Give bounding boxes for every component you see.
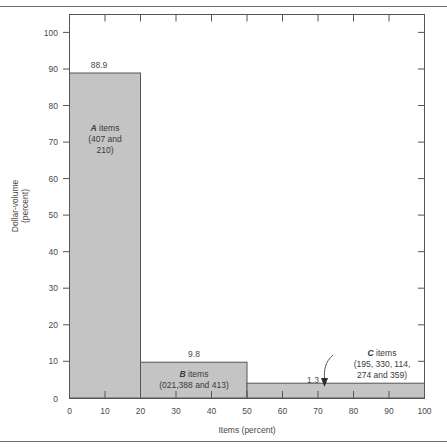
x-tick-label-100: 100 — [417, 406, 431, 416]
svg-text:A items: A items — [90, 123, 120, 133]
value-label-a: 88.9 — [91, 60, 108, 70]
annotation-c-rest: items — [374, 348, 397, 358]
annotation-a-emphasis: A — [90, 123, 97, 133]
bar-a-items — [70, 73, 141, 398]
svg-text:B items: B items — [180, 369, 209, 379]
y-tick-label-30: 30 — [49, 283, 59, 293]
chart-svg: 100 90 80 70 60 50 40 30 20 10 0 0 10 20… — [0, 0, 447, 448]
x-axis-top-ticks — [105, 15, 389, 22]
y-axis-title-line2: (percent) — [20, 189, 30, 223]
y-axis-ticks — [63, 32, 70, 361]
annotation-c-line2: (195, 330, 114, — [354, 359, 411, 369]
x-tick-label-20: 20 — [136, 406, 146, 416]
y-tick-label-40: 40 — [49, 247, 59, 257]
bar-c-items — [247, 383, 425, 398]
annotation-a-line3: 210) — [96, 145, 113, 155]
x-tick-label-70: 70 — [313, 406, 323, 416]
y-tick-label-80: 80 — [49, 101, 59, 111]
svg-text:C items: C items — [368, 348, 397, 358]
annotation-a-rest: items — [97, 123, 120, 133]
y-tick-label-20: 20 — [49, 320, 59, 330]
annotation-b-line2: (021,388 and 413) — [159, 380, 229, 390]
y-axis-title-line1: Dollar-volume — [10, 180, 20, 233]
annotation-c-line3: 274 and 359) — [357, 370, 407, 380]
x-tick-label-90: 90 — [384, 406, 394, 416]
y-tick-label-10: 10 — [49, 356, 59, 366]
value-label-c: 1.3 — [307, 375, 319, 385]
y-tick-label-90: 90 — [49, 64, 59, 74]
y-tick-label-0: 0 — [53, 394, 58, 404]
callout-leader — [321, 355, 333, 387]
y-axis-right-ticks — [418, 32, 425, 361]
x-tick-label-0: 0 — [67, 406, 72, 416]
annotation-a-line2: (407 and — [88, 134, 122, 144]
y-tick-label-60: 60 — [49, 174, 59, 184]
y-tick-label-50: 50 — [49, 210, 59, 220]
x-tick-label-40: 40 — [207, 406, 217, 416]
x-tick-label-30: 30 — [171, 406, 181, 416]
x-axis-title: Items (percent) — [218, 425, 275, 435]
x-tick-label-50: 50 — [242, 406, 252, 416]
value-label-b: 9.8 — [188, 349, 200, 359]
x-tick-label-60: 60 — [278, 406, 288, 416]
y-tick-label-100: 100 — [44, 28, 58, 38]
figure-container: 100 90 80 70 60 50 40 30 20 10 0 0 10 20… — [0, 0, 447, 448]
annotation-c-items: C items (195, 330, 114, 274 and 359) — [354, 348, 411, 380]
y-tick-label-70: 70 — [49, 137, 59, 147]
x-tick-label-10: 10 — [100, 406, 110, 416]
x-tick-label-80: 80 — [349, 406, 359, 416]
annotation-b-rest: items — [186, 369, 209, 379]
